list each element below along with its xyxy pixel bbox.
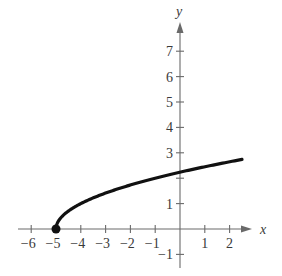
- y-tick-label: 5: [166, 95, 173, 110]
- x-tick-label: −5: [46, 236, 61, 251]
- x-axis-label: x: [259, 222, 267, 237]
- y-tick-label: −1: [158, 247, 173, 262]
- function-graph: −6−5−4−3−2−112−1134567 x y: [0, 0, 282, 276]
- x-tick-label: −4: [70, 236, 85, 251]
- closed-endpoint: [52, 225, 61, 234]
- y-axis-arrow-icon: [177, 22, 184, 33]
- x-tick-label: 1: [201, 236, 208, 251]
- x-tick-label: −3: [95, 236, 110, 251]
- x-tick-label: 2: [226, 236, 233, 251]
- y-axis-label: y: [174, 4, 183, 19]
- y-tick-label: 7: [166, 44, 173, 59]
- x-tick-label: −2: [120, 236, 135, 251]
- y-tick-label: 1: [166, 197, 173, 212]
- y-tick-label: 3: [166, 146, 173, 161]
- sqrt-curve: [56, 159, 242, 229]
- x-tick-label: −6: [21, 236, 36, 251]
- y-tick-label: 4: [166, 120, 173, 135]
- x-axis-arrow-icon: [241, 226, 252, 233]
- ticks: [31, 51, 229, 254]
- y-tick-label: 6: [166, 70, 173, 85]
